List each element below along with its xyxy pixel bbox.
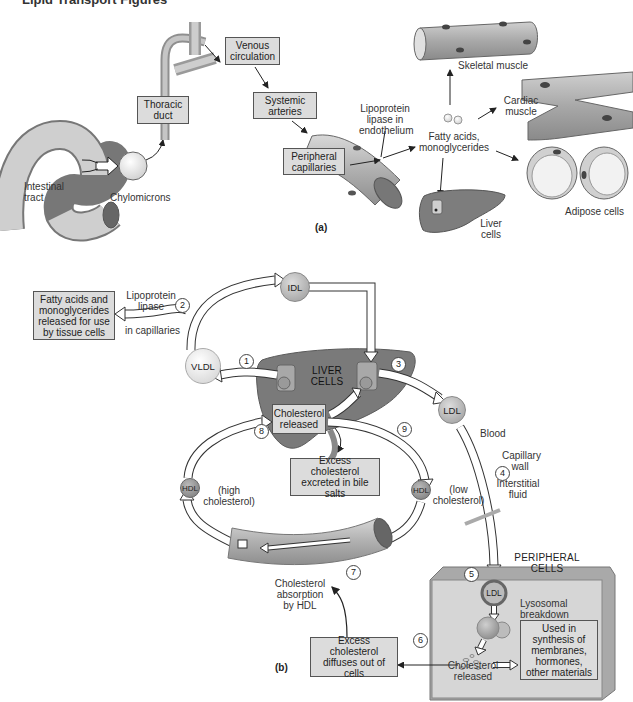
interstitial-fluid-label: Interstitial fluid: [496, 478, 540, 500]
adipose-cells-label: Adipose cells: [565, 206, 624, 217]
fatty-acids-box: Fatty acids and monoglycerides released …: [33, 291, 115, 340]
step-3-marker: 3: [391, 357, 406, 372]
skeletal-muscle-illustration: [414, 22, 538, 61]
ldl-ball: LDL: [438, 396, 466, 424]
step-7-marker: 7: [346, 565, 361, 580]
liver-cells-label: Liver cells: [478, 218, 504, 240]
hdl-low-ball: HDL: [411, 480, 431, 500]
systemic-arteries-box: Systemic arteries: [253, 92, 317, 119]
excess-diffuses-box: Excess cholesterol diffuses out of cells: [310, 637, 398, 677]
step-4-marker: 4: [495, 466, 510, 481]
lipoprotein-lipase-b-label: Lipoprotein lipase: [126, 290, 176, 312]
in-capillaries-label: in capillaries: [125, 325, 180, 336]
intestinal-tract-label: Intestinal tract: [24, 181, 64, 203]
cholesterol-absorption-label: Cholesterol absorption by HDL: [270, 578, 330, 611]
liver-cells-b-label: LIVER CELLS: [307, 365, 347, 387]
used-in-synthesis-box: Used in synthesis of membranes, hormones…: [520, 620, 598, 680]
idl-ball: IDL: [280, 272, 310, 302]
low-cholesterol-label: (low cholesterol): [431, 484, 486, 506]
lysosomal-breakdown-label: Lysosomal breakdown: [520, 598, 566, 620]
chylomicron-ball: [119, 152, 147, 180]
step-5-marker: 5: [464, 567, 479, 582]
step-2-marker: 2: [175, 298, 190, 313]
lipoprotein-lipase-label: Lipoprotein lipase in endothelium: [359, 103, 411, 136]
step-8-marker: 8: [254, 424, 269, 439]
cholesterol-released-cell-label: Cholesterol released: [447, 660, 499, 682]
fatty-acids-label: Fatty acids, monoglycerides: [418, 131, 490, 153]
skeletal-muscle-label: Skeletal muscle: [458, 60, 528, 71]
excess-excreted-box: Excess cholesterol excreted in bile salt…: [290, 458, 380, 496]
blood-vessel-illustration: [228, 516, 396, 564]
hdl-high-ball: HDL: [180, 478, 200, 498]
step-9-marker: 9: [397, 422, 412, 437]
high-cholesterol-label: (high cholesterol): [201, 485, 257, 507]
adipose-cells-illustration: [527, 147, 628, 199]
cardiac-muscle-label: Cardiac muscle: [500, 95, 542, 117]
peripheral-capillaries-box: Peripheral capillaries: [283, 148, 345, 175]
lipid-transport-figure: Lipid Transport Figures: [0, 0, 633, 702]
blood-label: Blood: [480, 428, 506, 439]
peripheral-cells-label: PERIPHERAL CELLS: [512, 552, 582, 574]
chylomicrons-label: Chylomicrons: [110, 192, 171, 203]
part-a-label: (a): [315, 222, 327, 233]
part-b-label: (b): [275, 662, 288, 673]
vldl-ball: VLDL: [185, 348, 221, 384]
thoracic-duct-box: Thoracic duct: [137, 96, 189, 124]
step-6-marker: 6: [413, 633, 428, 648]
cholesterol-released-liver-box: Cholesterol released: [272, 404, 326, 434]
ldl-cell-ball: LDL: [484, 583, 504, 603]
step-1-marker: 1: [239, 354, 254, 369]
venous-circulation-box: Venous circulation: [225, 37, 280, 65]
